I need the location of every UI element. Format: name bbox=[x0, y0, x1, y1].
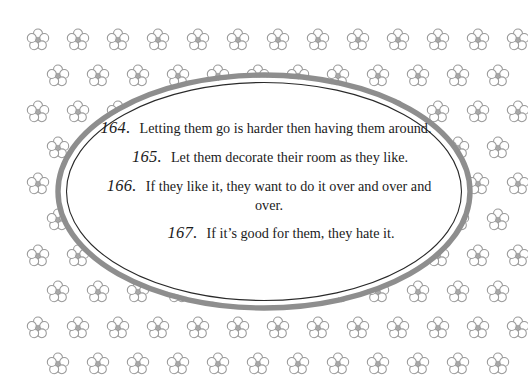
quote-number-164: 164. bbox=[100, 118, 139, 137]
five-petal-flower-icon bbox=[267, 317, 288, 338]
five-petal-flower-icon bbox=[487, 281, 508, 302]
five-petal-flower-icon bbox=[227, 29, 248, 50]
five-petal-flower-icon bbox=[47, 353, 68, 374]
quote-item-166: 166.If they like it, they want to do it … bbox=[88, 176, 440, 214]
five-petal-flower-icon bbox=[287, 65, 308, 86]
five-petal-flower-icon bbox=[27, 29, 48, 50]
five-petal-flower-icon bbox=[487, 209, 508, 230]
five-petal-flower-icon bbox=[367, 281, 388, 302]
five-petal-flower-icon bbox=[467, 101, 488, 122]
five-petal-flower-icon bbox=[207, 281, 228, 302]
five-petal-flower-icon bbox=[507, 29, 528, 50]
five-petal-flower-icon bbox=[67, 245, 88, 266]
five-petal-flower-icon bbox=[307, 317, 328, 338]
quote-number-167: 167. bbox=[167, 223, 206, 242]
five-petal-flower-icon bbox=[247, 281, 268, 302]
five-petal-flower-icon bbox=[347, 317, 368, 338]
five-petal-flower-icon bbox=[207, 353, 228, 374]
five-petal-flower-icon bbox=[167, 353, 188, 374]
five-petal-flower-icon bbox=[427, 29, 448, 50]
five-petal-flower-icon bbox=[447, 209, 468, 230]
quote-item-167: 167.If it’s good for them, they hate it. bbox=[88, 223, 440, 243]
five-petal-flower-icon bbox=[87, 65, 108, 86]
five-petal-flower-icon bbox=[67, 317, 88, 338]
five-petal-flower-icon bbox=[307, 29, 328, 50]
five-petal-flower-icon bbox=[87, 353, 108, 374]
five-petal-flower-icon bbox=[67, 173, 88, 194]
quote-number-166: 166. bbox=[107, 176, 146, 195]
five-petal-flower-icon bbox=[247, 353, 268, 374]
five-petal-flower-icon bbox=[467, 317, 488, 338]
five-petal-flower-icon bbox=[27, 173, 48, 194]
quote-text-164: Letting them go is harder then having th… bbox=[140, 120, 432, 136]
five-petal-flower-icon bbox=[147, 317, 168, 338]
five-petal-flower-icon bbox=[507, 317, 528, 338]
five-petal-flower-icon bbox=[487, 65, 508, 86]
five-petal-flower-icon bbox=[407, 65, 428, 86]
five-petal-flower-icon bbox=[387, 29, 408, 50]
five-petal-flower-icon bbox=[207, 65, 228, 86]
five-petal-flower-icon bbox=[107, 29, 128, 50]
five-petal-flower-icon bbox=[87, 281, 108, 302]
five-petal-flower-icon bbox=[187, 29, 208, 50]
five-petal-flower-icon bbox=[107, 317, 128, 338]
five-petal-flower-icon bbox=[487, 353, 508, 374]
five-petal-flower-icon bbox=[447, 353, 468, 374]
five-petal-flower-icon bbox=[447, 137, 468, 158]
five-petal-flower-icon bbox=[447, 281, 468, 302]
five-petal-flower-icon bbox=[167, 281, 188, 302]
five-petal-flower-icon bbox=[127, 65, 148, 86]
five-petal-flower-icon bbox=[47, 65, 68, 86]
five-petal-flower-icon bbox=[27, 245, 48, 266]
quote-number-165: 165. bbox=[132, 147, 171, 166]
five-petal-flower-icon bbox=[367, 65, 388, 86]
five-petal-flower-icon bbox=[267, 29, 288, 50]
five-petal-flower-icon bbox=[167, 65, 188, 86]
quote-item-165: 165.Let them decorate their room as they… bbox=[88, 147, 440, 167]
five-petal-flower-icon bbox=[327, 353, 348, 374]
decorative-quote-page: 164.Letting them go is harder then havin… bbox=[0, 0, 528, 388]
five-petal-flower-icon bbox=[327, 281, 348, 302]
five-petal-flower-icon bbox=[407, 281, 428, 302]
five-petal-flower-icon bbox=[67, 101, 88, 122]
five-petal-flower-icon bbox=[387, 317, 408, 338]
five-petal-flower-icon bbox=[127, 281, 148, 302]
five-petal-flower-icon bbox=[47, 281, 68, 302]
quote-text-166: If they like it, they want to do it over… bbox=[146, 178, 432, 213]
five-petal-flower-icon bbox=[227, 317, 248, 338]
five-petal-flower-icon bbox=[47, 209, 68, 230]
five-petal-flower-icon bbox=[507, 101, 528, 122]
five-petal-flower-icon bbox=[247, 65, 268, 86]
five-petal-flower-icon bbox=[407, 353, 428, 374]
five-petal-flower-icon bbox=[127, 353, 148, 374]
five-petal-flower-icon bbox=[67, 29, 88, 50]
five-petal-flower-icon bbox=[347, 29, 368, 50]
five-petal-flower-icon bbox=[487, 137, 508, 158]
five-petal-flower-icon bbox=[467, 245, 488, 266]
five-petal-flower-icon bbox=[507, 173, 528, 194]
five-petal-flower-icon bbox=[467, 173, 488, 194]
five-petal-flower-icon bbox=[27, 101, 48, 122]
quote-item-164: 164.Letting them go is harder then havin… bbox=[88, 118, 440, 138]
five-petal-flower-icon bbox=[327, 65, 348, 86]
five-petal-flower-icon bbox=[187, 317, 208, 338]
quote-text-167: If it’s good for them, they hate it. bbox=[207, 225, 395, 241]
five-petal-flower-icon bbox=[447, 65, 468, 86]
five-petal-flower-icon bbox=[47, 137, 68, 158]
five-petal-flower-icon bbox=[427, 317, 448, 338]
quote-text-165: Let them decorate their room as they lik… bbox=[171, 149, 408, 165]
five-petal-flower-icon bbox=[287, 353, 308, 374]
five-petal-flower-icon bbox=[467, 29, 488, 50]
five-petal-flower-icon bbox=[507, 245, 528, 266]
five-petal-flower-icon bbox=[27, 317, 48, 338]
five-petal-flower-icon bbox=[367, 353, 388, 374]
five-petal-flower-icon bbox=[147, 29, 168, 50]
five-petal-flower-icon bbox=[287, 281, 308, 302]
quote-list: 164.Letting them go is harder then havin… bbox=[88, 118, 440, 270]
